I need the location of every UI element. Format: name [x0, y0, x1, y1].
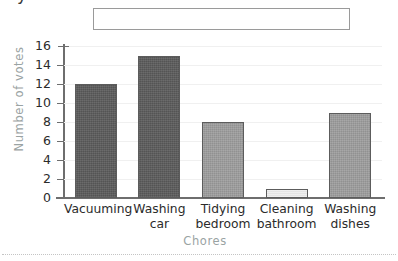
x-axis-category-label-line: bathroom — [255, 217, 319, 232]
bar — [329, 113, 371, 199]
y-axis-tick — [57, 122, 63, 123]
y-axis-tick — [57, 179, 63, 180]
x-axis-category-label-line: Cleaning — [255, 202, 319, 217]
x-axis-category-label: Washingdishes — [318, 202, 382, 232]
y-axis-tick-label: 6 — [25, 135, 51, 147]
x-axis-title: Chores — [150, 234, 260, 248]
x-axis-category-label-line: Washing — [318, 202, 382, 217]
y-axis-tick — [58, 46, 69, 47]
y-axis-tick-label: 12 — [25, 78, 51, 90]
x-axis-category-label-line: Tidying — [191, 202, 255, 217]
x-axis-category-label: Cleaningbathroom — [255, 202, 319, 232]
bar — [202, 122, 244, 198]
bar — [138, 56, 180, 199]
x-axis-category-label: Vacuuming — [64, 202, 128, 217]
answer-input-box[interactable] — [93, 8, 350, 30]
bar — [75, 84, 117, 198]
y-axis-tick-label: 14 — [25, 59, 51, 71]
x-axis-category-label: Washingcar — [128, 202, 192, 232]
page-separator-rule — [2, 254, 396, 255]
y-axis-tick — [57, 65, 63, 66]
gridline — [64, 46, 382, 47]
bar — [266, 189, 308, 199]
x-axis-category-label-line: bedroom — [191, 217, 255, 232]
y-axis-tick-label: 4 — [25, 154, 51, 166]
y-axis-tick-label: 2 — [25, 173, 51, 185]
y-axis-title: Number of votes — [12, 44, 26, 154]
y-axis-tick-label: 8 — [25, 116, 51, 128]
y-axis-tick — [57, 84, 63, 85]
plot-area — [64, 46, 382, 198]
x-axis-category-label-line: dishes — [318, 217, 382, 232]
y-axis-tick — [57, 198, 63, 199]
y-axis-tick — [57, 103, 63, 104]
x-axis-category-label: Tidyingbedroom — [191, 202, 255, 232]
y-axis-tick-label: 16 — [25, 40, 51, 52]
x-axis-category-label-line: car — [128, 217, 192, 232]
y-axis-tick — [57, 141, 63, 142]
x-axis-category-label-line: Vacuuming — [64, 202, 128, 217]
y-axis-tick-label: 0 — [25, 192, 51, 204]
y-axis-tick — [57, 160, 63, 161]
x-axis-category-label-line: Washing — [128, 202, 192, 217]
cut-off-text-fragment: y — [17, 0, 26, 5]
y-axis-tick-label: 10 — [25, 97, 51, 109]
chart-page: y 0246810121416 VacuumingWashingcarTidyi… — [0, 0, 398, 261]
gridline — [64, 65, 382, 66]
